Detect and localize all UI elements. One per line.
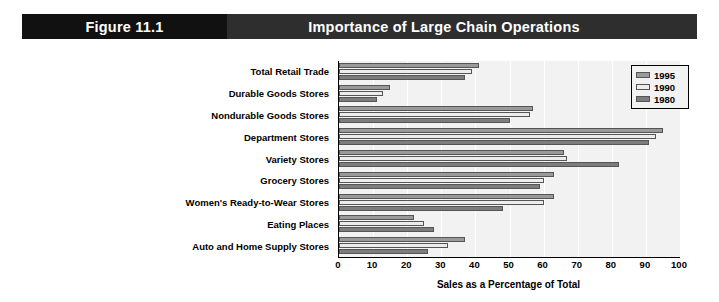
x-tick-label: 10 <box>367 259 378 270</box>
bar-1995 <box>339 150 564 155</box>
chart-legend: 199519901980 <box>631 65 689 109</box>
y-axis-category-labels: Total Retail TradeDurable Goods StoresNo… <box>150 61 335 257</box>
bar-1990 <box>339 112 530 117</box>
plot-area <box>338 61 680 258</box>
bar-groups <box>339 61 680 257</box>
bar-1995 <box>339 63 479 68</box>
bar-1980 <box>339 140 649 145</box>
bar-1995 <box>339 194 554 199</box>
x-tick-label: 40 <box>469 259 480 270</box>
bar-group <box>339 83 680 105</box>
x-tick-label: 20 <box>401 259 412 270</box>
bar-1990 <box>339 134 656 139</box>
bar-1995 <box>339 237 465 242</box>
category-label: Nondurable Goods Stores <box>150 105 335 127</box>
x-axis-ticks: 0102030405060708090100 <box>338 259 679 275</box>
figure-header-banner: Figure 11.1 Importance of Large Chain Op… <box>22 14 697 39</box>
bar-group <box>339 126 680 148</box>
bar-group <box>339 235 680 257</box>
legend-label: 1990 <box>654 82 675 93</box>
bar-1995 <box>339 85 390 90</box>
bar-1990 <box>339 178 544 183</box>
legend-label: 1980 <box>654 94 675 105</box>
x-axis-title: Sales as a Percentage of Total <box>338 279 679 290</box>
bar-1990 <box>339 221 424 226</box>
category-label: Women's Ready-to-Wear Stores <box>150 192 335 214</box>
legend-label: 1995 <box>654 70 675 81</box>
bar-1990 <box>339 91 383 96</box>
x-tick-label: 70 <box>571 259 582 270</box>
category-label: Total Retail Trade <box>150 61 335 83</box>
legend-swatch-1990 <box>636 84 650 90</box>
category-label: Durable Goods Stores <box>150 83 335 105</box>
bar-1995 <box>339 106 533 111</box>
x-tick-label: 60 <box>537 259 548 270</box>
bar-1980 <box>339 184 540 189</box>
bar-1980 <box>339 118 510 123</box>
bar-group <box>339 213 680 235</box>
x-tick-label: 100 <box>671 259 687 270</box>
category-label: Department Stores <box>150 126 335 148</box>
legend-item: 1980 <box>636 93 684 105</box>
legend-item: 1995 <box>636 69 684 81</box>
bar-1990 <box>339 200 544 205</box>
x-tick-label: 30 <box>435 259 446 270</box>
chart-container: Total Retail TradeDurable Goods StoresNo… <box>0 47 719 302</box>
bar-1995 <box>339 128 663 133</box>
bar-group <box>339 61 680 83</box>
bar-1980 <box>339 249 428 254</box>
x-tick-label: 0 <box>335 259 340 270</box>
category-label: Auto and Home Supply Stores <box>150 235 335 257</box>
legend-swatch-1980 <box>636 96 650 102</box>
category-label: Eating Places <box>150 213 335 235</box>
legend-item: 1990 <box>636 81 684 93</box>
bar-1990 <box>339 156 567 161</box>
bar-1980 <box>339 206 503 211</box>
figure-title: Importance of Large Chain Operations <box>308 19 579 35</box>
bar-1990 <box>339 69 472 74</box>
bar-1980 <box>339 97 377 102</box>
x-tick-label: 90 <box>640 259 651 270</box>
bar-group <box>339 192 680 214</box>
bar-1980 <box>339 75 465 80</box>
bar-group <box>339 105 680 127</box>
figure-number: Figure 11.1 <box>86 19 164 35</box>
category-label: Variety Stores <box>150 148 335 170</box>
bar-1995 <box>339 215 414 220</box>
category-label: Grocery Stores <box>150 170 335 192</box>
bar-1995 <box>339 172 554 177</box>
legend-swatch-1995 <box>636 72 650 78</box>
figure-number-block: Figure 11.1 <box>22 14 227 39</box>
bar-1990 <box>339 243 448 248</box>
bar-group <box>339 170 680 192</box>
bar-1980 <box>339 227 434 232</box>
bar-group <box>339 148 680 170</box>
x-tick-label: 50 <box>503 259 514 270</box>
bar-1980 <box>339 162 619 167</box>
x-tick-label: 80 <box>606 259 617 270</box>
figure-title-block: Importance of Large Chain Operations <box>227 14 697 39</box>
